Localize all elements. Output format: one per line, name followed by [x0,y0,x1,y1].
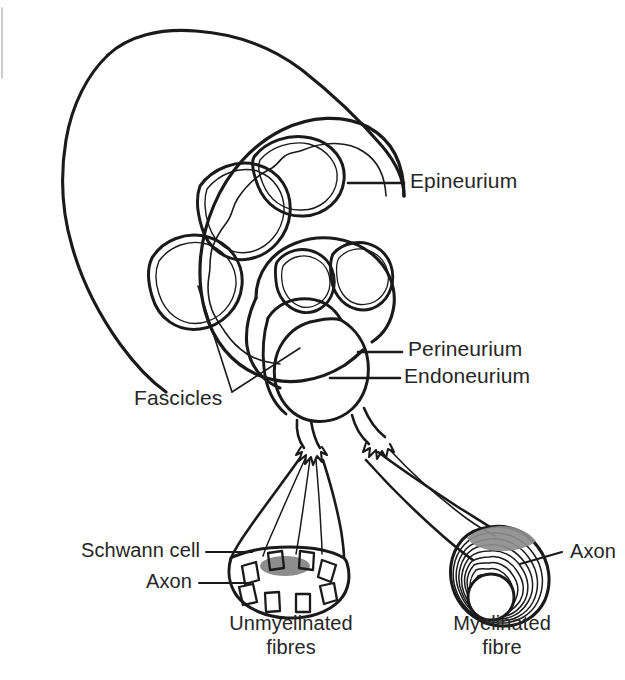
unmyelinated-cone-right-edge [323,460,344,558]
unmyelinated-axon-1 [242,562,259,584]
right-stalk-inner-edge [352,415,369,444]
label-myelinated-line1: Myelinated [428,613,576,634]
fascicle-upper-right-perineurium [259,143,337,210]
label-axon-left: Axon [58,571,192,592]
unmyelinated-axon-8 [320,583,337,604]
extruded-fascicle-top-edge [268,299,341,320]
fascicle-lower-left-perineurium [156,242,236,323]
left-stalk-inner-edge [297,420,304,448]
label-fascicles: Fascicles [134,387,222,409]
unmyelinated-axon-7 [296,594,310,612]
fascicle-small-right [331,243,393,310]
leader-fascicles-a [198,286,232,392]
label-unmyelinated-line2: fibres [203,637,379,658]
label-unmyelinated-line1: Unmyelinated [203,613,379,634]
fascicle-lower-left [149,235,243,329]
myelinated-cone-fold [390,450,495,536]
endoneurium-cut-face [274,319,368,422]
label-axon-right: Axon [570,541,616,562]
label-schwann-cell: Schwann cell [58,540,200,561]
schwann-cell-nucleus [260,556,310,576]
unmyelinated-axon-6 [265,592,280,612]
nerve-structure-diagram: Epineurium Perineurium Endoneurium Fasci… [0,0,625,680]
left-stalk-outer-edge [311,421,320,448]
label-epineurium: Epineurium [410,170,517,192]
unmyelinated-cone-left-edge [231,458,300,558]
left-stalk-frayed-end [296,447,327,465]
right-stalk-outer-edge [364,408,385,437]
fascicle-small-right-perineurium [337,249,389,305]
nerve-trunk-lower-edge [63,55,166,392]
unmyelinated-axon-4 [318,560,336,582]
label-perineurium: Perineurium [408,338,522,360]
label-myelinated-line2: fibre [428,637,576,658]
unmyelinated-axon-5 [239,584,257,605]
unmyelinated-cone-fold-2 [316,460,322,554]
label-endoneurium: Endoneurium [404,365,530,387]
